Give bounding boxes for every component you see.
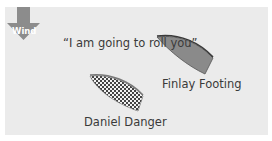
boat-label-daniel-danger: Daniel Danger [84,115,167,129]
wind-label: Wind [12,26,36,36]
boat-daniel-danger-icon [90,75,143,111]
quote-text: “I am going to roll you” [63,36,198,50]
boat-label-finlay-footing: Finlay Footing [162,77,242,91]
